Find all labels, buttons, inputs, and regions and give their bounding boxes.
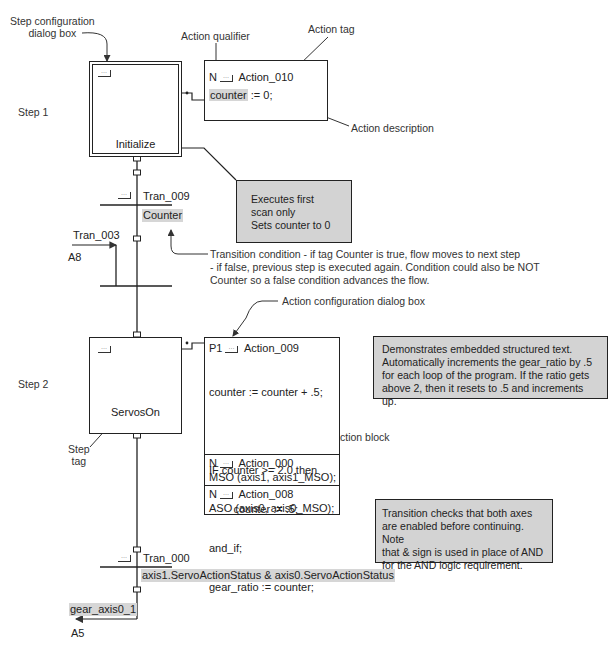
note-line: Demonstrates embedded structured text. — [382, 343, 599, 356]
action-qualifier[interactable]: N — [209, 457, 217, 469]
action-code: counter := 0; — [209, 89, 272, 102]
note-line: Sets counter to 0 — [251, 219, 337, 232]
note-line: Transition checks that both axes — [382, 507, 546, 520]
tran-000-name: Tran_000 — [143, 552, 190, 565]
action-header: N··· Action_010 — [209, 71, 293, 84]
action-block-1[interactable]: P1··· Action_009 counter := counter + .5… — [205, 338, 339, 455]
action-code: ASO (axis0, axis0_MSO); — [209, 502, 334, 515]
transition-config-icon[interactable]: ··· — [118, 555, 131, 562]
action-header: P1··· Action_009 — [209, 342, 299, 355]
action-header: N··· Action_000 — [209, 457, 293, 470]
action-config-dialog-icon[interactable]: ··· — [225, 346, 238, 353]
tran-003-ref[interactable]: A8 — [68, 251, 81, 264]
action-tag: Action_000 — [238, 457, 293, 469]
action-config-dialog-icon[interactable]: ··· — [220, 461, 233, 468]
note-line: for the AND logic requirement. — [382, 559, 546, 572]
note-line: are enabled before continuing. Note — [382, 520, 546, 546]
annotation-line: - if false, previous step is executed ag… — [210, 261, 540, 274]
action-tag: Action_009 — [244, 342, 299, 354]
tran-009-condition[interactable]: Counter — [142, 209, 183, 222]
action-qualifier[interactable]: P1 — [209, 342, 222, 354]
step-config-dialog-annotation: Step configuration dialog box — [10, 15, 95, 39]
note-line: above 2, then it resets to .5 and increm… — [382, 382, 599, 408]
action-tag-annotation: Action tag — [308, 23, 355, 35]
code-line: gear_ratio := counter; — [209, 581, 323, 594]
tran-000-condition[interactable]: axis1.ServoActionStatus & axis0.ServoAct… — [141, 569, 395, 582]
action-config-dialog-icon[interactable]: ··· — [220, 492, 233, 499]
annotation-line: Step — [68, 443, 90, 455]
annotation-line: Transition condition - if tag Counter is… — [210, 248, 540, 261]
tran-003-name: Tran_003 — [73, 229, 120, 242]
step2-label: Step 2 — [18, 378, 48, 390]
action-config-dialog-icon[interactable]: ··· — [220, 75, 233, 82]
jump-tag[interactable]: gear_axis0_1 — [69, 603, 137, 616]
step-tag-annotation: Step tag — [68, 443, 90, 467]
action-block-3[interactable]: N··· Action_008 ASO (axis0, axis0_MSO); — [205, 485, 339, 516]
annotation-line: Counter so a false condition advances th… — [210, 274, 540, 287]
step1-tag: Initialize — [90, 138, 181, 151]
action-block-2[interactable]: N··· Action_000 MSO (axis1, axis1_MSO); — [205, 454, 339, 486]
step1-note: Executes first scan only Sets counter to… — [236, 180, 352, 243]
code-rest: := 0; — [248, 89, 273, 101]
action-description-annotation: Action description — [351, 122, 434, 134]
tran-000-note: Transition checks that both axes are ena… — [375, 499, 553, 563]
note-line: Automatically increments the gear_ratio … — [382, 356, 599, 369]
code-line: and_if; — [209, 542, 323, 555]
tran-009-name: Tran_009 — [143, 190, 190, 203]
annotation-line: tag — [68, 455, 90, 467]
step-config-dialog-icon[interactable]: ··· — [98, 70, 111, 77]
action-qualifier-annotation: Action qualifier — [181, 30, 250, 42]
note-line: Executes first scan only — [251, 193, 337, 219]
action-qualifier[interactable]: N — [209, 71, 217, 83]
transition-condition-annotation: Transition condition - if tag Counter is… — [210, 248, 540, 287]
action-qualifier[interactable]: N — [209, 488, 217, 500]
annotation-line: Step configuration — [10, 15, 95, 27]
action-block-annotation: Action block — [333, 431, 390, 443]
action-config-dialog-annotation: Action configuration dialog box — [282, 295, 425, 307]
note-line: for each loop of the program. If the rat… — [382, 369, 599, 382]
action-header: N··· Action_008 — [209, 488, 293, 501]
step2-note: Demonstrates embedded structured text. A… — [373, 336, 608, 399]
step2-block[interactable]: ··· ServosOn — [89, 337, 182, 434]
code-line: counter := counter + .5; — [209, 386, 323, 399]
annotation-line: dialog box — [10, 27, 95, 39]
action-tag: Action_008 — [238, 488, 293, 500]
action-code: MSO (axis1, axis1_MSO); — [209, 471, 336, 484]
step-config-dialog-icon[interactable]: ··· — [98, 346, 111, 353]
step2-action-list: P1··· Action_009 counter := counter + .5… — [204, 337, 340, 515]
step1-block[interactable]: ··· Initialize — [89, 61, 182, 157]
step1-action-block[interactable]: N··· Action_010 counter := 0; — [204, 60, 328, 121]
jump-ref[interactable]: A5 — [71, 627, 84, 640]
note-line: that & sign is used in place of AND — [382, 546, 546, 559]
code-highlight: counter — [209, 89, 248, 101]
transition-config-icon[interactable]: ··· — [118, 192, 131, 199]
action-tag: Action_010 — [238, 71, 293, 83]
step2-tag: ServosOn — [90, 406, 181, 419]
code-line — [209, 425, 323, 438]
step1-label: Step 1 — [18, 106, 48, 118]
